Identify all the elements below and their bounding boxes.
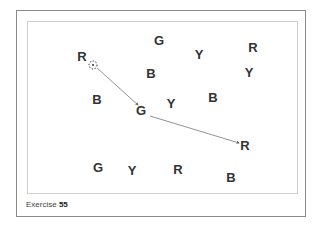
letter-r: R — [173, 163, 182, 176]
letter-b: B — [92, 93, 101, 106]
letter-y: Y — [195, 48, 204, 61]
caption: Exercise 55 — [26, 200, 68, 209]
letter-r: R — [240, 139, 249, 152]
letter-b: B — [146, 67, 155, 80]
letter-g: G — [136, 104, 146, 117]
letter-y: Y — [245, 66, 254, 79]
path-arrow-1 — [97, 68, 138, 105]
letter-g: G — [154, 34, 164, 47]
path-arrow-2 — [150, 116, 239, 143]
letter-r: R — [248, 41, 257, 54]
letter-b: B — [208, 91, 217, 104]
letter-g: G — [93, 161, 103, 174]
letter-y: Y — [167, 97, 176, 110]
letter-r: R — [77, 50, 86, 63]
letter-b: B — [226, 171, 235, 184]
letter-y: Y — [128, 164, 137, 177]
